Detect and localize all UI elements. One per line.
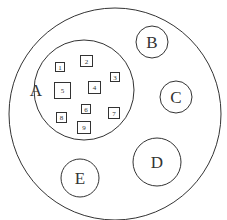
square-label-1: 1 — [58, 64, 62, 72]
square-label-8: 8 — [60, 114, 64, 122]
square-label-3: 3 — [113, 74, 117, 82]
square-label-5: 5 — [61, 87, 65, 95]
circle-label-c: C — [170, 88, 181, 107]
set-diagram: ABCDE 123456789 — [0, 0, 227, 220]
square-label-7: 7 — [112, 110, 116, 118]
circle-label-a: A — [30, 81, 43, 100]
square-label-6: 6 — [84, 106, 88, 114]
square-label-9: 9 — [82, 124, 86, 132]
circle-label-b: B — [146, 33, 157, 52]
numbered-squares: 123456789 — [55, 56, 120, 134]
circle-label-d: D — [151, 153, 163, 172]
circle-label-e: E — [75, 169, 85, 188]
square-label-2: 2 — [85, 58, 89, 66]
square-label-4: 4 — [93, 84, 97, 92]
